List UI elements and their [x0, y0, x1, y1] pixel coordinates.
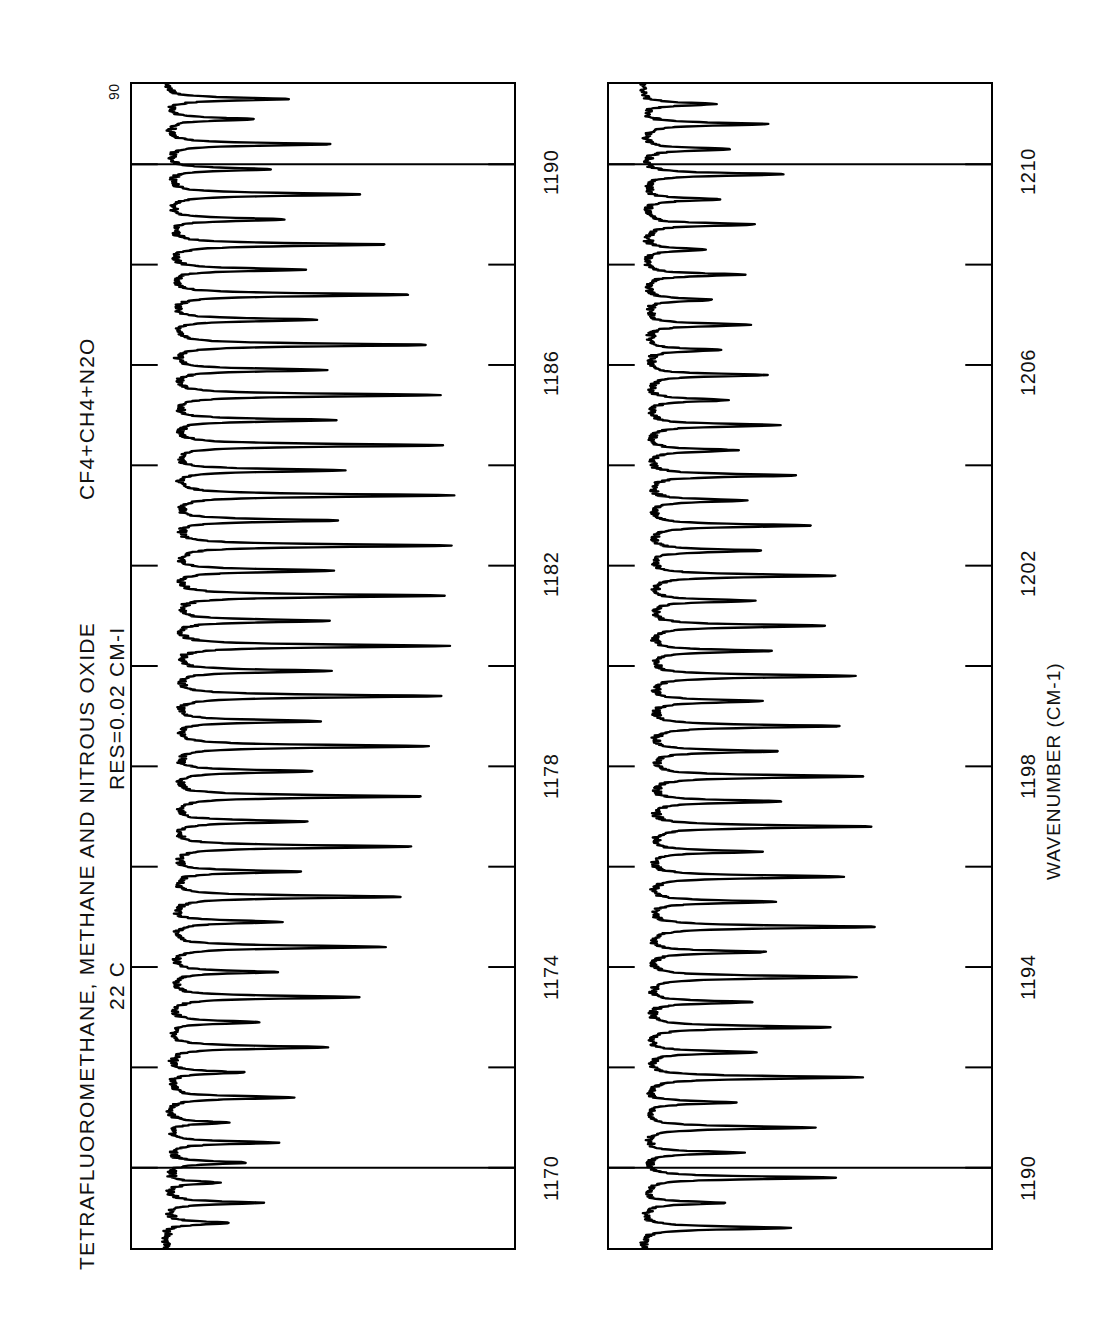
axis-tick-label: 1186 [540, 351, 563, 396]
lower-panel [607, 82, 993, 1250]
figure-title-resolution: RES=0.02 CM-I [105, 627, 129, 790]
spectrum-figure: TETRAFLUOROMETHANE, METHANE AND NITROUS … [0, 0, 1113, 1331]
lower-panel-ticks [609, 164, 991, 1167]
figure-title-line-1: TETRAFLUOROMETHANE, METHANE AND NITROUS … [75, 622, 99, 1270]
axis-tick-label: 1190 [1017, 1156, 1040, 1201]
upper-panel-plot [132, 84, 514, 1248]
axis-tick-label: 1174 [540, 955, 563, 1000]
lower-panel-gridlines [609, 164, 991, 1167]
axis-tick-label: 1182 [540, 552, 563, 597]
axis-tick-label: 1178 [540, 753, 563, 798]
upper-panel [130, 82, 516, 1250]
axis-tick-label: 1194 [1017, 955, 1040, 1000]
axis-tick-label: 1206 [1017, 349, 1040, 396]
axis-tick-label: 1198 [1017, 753, 1040, 798]
figure-title-temperature: 22 C [105, 961, 129, 1010]
upper-panel-trace [162, 84, 454, 1248]
lower-panel-trace [640, 84, 874, 1248]
x-axis-label: WAVENUMBER (CM-1) [1043, 662, 1065, 880]
axis-tick-label: 1170 [540, 1156, 563, 1201]
axis-tick-label: 1190 [540, 149, 563, 194]
lower-panel-plot [609, 84, 991, 1248]
figure-title-formula: CF4+CH4+N2O [75, 337, 99, 500]
axis-tick-label: 1202 [1017, 550, 1040, 597]
axis-tick-label: 1210 [1017, 148, 1040, 195]
upper-panel-y-max-label: 90 [106, 83, 122, 100]
